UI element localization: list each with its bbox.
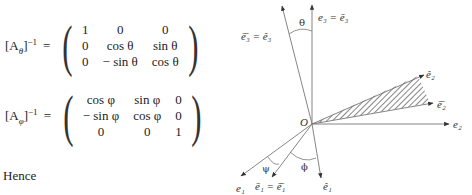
e1-hat-label: ê₁ xyxy=(323,180,332,192)
phi-arc xyxy=(290,152,316,160)
axis-e1-hat xyxy=(312,124,321,178)
psi-label: ψ xyxy=(262,163,270,174)
theta-label: θ xyxy=(299,17,305,28)
e2-label: e₂ xyxy=(453,118,462,130)
axis-e3-bar-bar xyxy=(282,6,312,124)
origin-label: O xyxy=(300,116,308,128)
e1-label: e₁ xyxy=(236,182,245,194)
e3-label: e₃ = ē₃ xyxy=(318,11,349,23)
phi-label: ϕ xyxy=(301,161,308,172)
e1-bar-label: ē₁ = ē̄₁ xyxy=(255,180,286,192)
theta-arc xyxy=(289,29,312,34)
e3-bar-bar-label: ē̄₃ = ê₃ xyxy=(241,30,272,42)
hatched-wedge xyxy=(312,76,430,124)
euler-angle-diagram: O θ ϕ ψ e₃ = ē₃ ē̄₃ = ê₃ ê₂ ē̄₂ e₂ e₁ ē₁… xyxy=(0,0,472,195)
e2-bar-bar-label: ē̄₂ xyxy=(437,98,446,110)
e2-hat-label: ê₂ xyxy=(426,68,435,80)
